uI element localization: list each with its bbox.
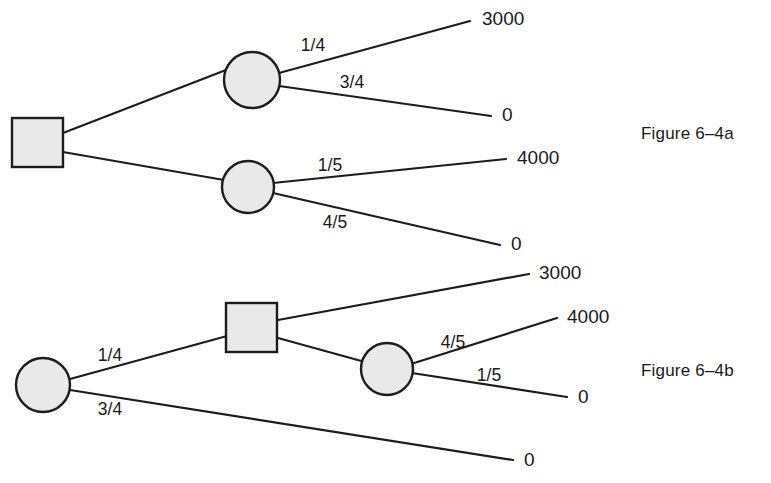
figure-canvas: 1/4 3/4 1/5 4/5 3000 0 4000 0: [0, 0, 771, 483]
payoff-label-b-2: 4000: [567, 306, 609, 327]
prob-label-a-top-upper: 1/4: [301, 35, 326, 55]
edge-a-chance-bottom-lower: [273, 193, 500, 245]
prob-label-b-chance-lower: 1/5: [477, 365, 501, 385]
edge-a-root-to-chance-bottom: [63, 152, 224, 180]
edge-b-root-to-decision: [70, 336, 227, 379]
payoff-label-a-4: 0: [511, 233, 522, 254]
tree-figure-6-4b: 1/4 3/4 4/5 1/5 3000 4000 0 0: [16, 262, 609, 470]
prob-label-b-chance-upper: 4/5: [441, 332, 465, 352]
prob-label-b-root-lower: 3/4: [98, 399, 123, 419]
figure-caption-a: Figure 6–4a: [641, 124, 734, 144]
payoff-label-b-4: 0: [524, 449, 535, 470]
edge-a-chance-bottom-upper: [273, 159, 506, 183]
payoff-label-a-1: 3000: [482, 8, 524, 29]
prob-label-a-bottom-lower: 4/5: [323, 212, 347, 232]
edge-a-chance-top-lower: [279, 86, 491, 116]
payoff-label-b-1: 3000: [539, 262, 581, 283]
payoff-label-a-3: 4000: [517, 147, 559, 168]
decision-tree-svg: 1/4 3/4 1/5 4/5 3000 0 4000 0: [0, 0, 771, 483]
node-b-chance-root[interactable]: [16, 358, 70, 412]
node-b-chance-right[interactable]: [361, 343, 413, 395]
edge-b-decision-to-chance: [278, 338, 365, 362]
edge-b-decision-to-payoff-1: [278, 274, 529, 320]
node-a-chance-top[interactable]: [224, 52, 280, 108]
node-a-decision-root[interactable]: [12, 118, 63, 167]
prob-label-a-top-lower: 3/4: [340, 72, 365, 92]
figure-caption-b: Figure 6–4b: [641, 361, 734, 381]
tree-figure-6-4a: 1/4 3/4 1/5 4/5 3000 0 4000 0: [12, 8, 559, 254]
node-a-chance-bottom[interactable]: [222, 161, 274, 213]
edge-b-root-to-payoff-4: [70, 390, 513, 460]
payoff-label-a-2: 0: [502, 104, 513, 125]
edge-a-root-to-chance-top: [63, 70, 226, 133]
payoff-label-b-3: 0: [578, 386, 589, 407]
edge-b-chance-upper: [411, 318, 557, 364]
node-b-decision[interactable]: [226, 303, 277, 352]
prob-label-b-root-upper: 1/4: [98, 345, 123, 365]
prob-label-a-bottom-upper: 1/5: [318, 155, 342, 175]
